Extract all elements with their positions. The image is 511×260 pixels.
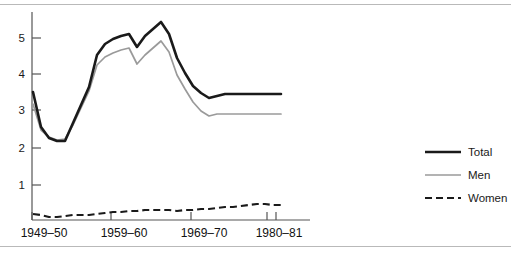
series-line-women (33, 204, 281, 217)
y-tick-label-4: 4 (19, 68, 26, 80)
bottom-divider-rule (0, 246, 511, 247)
y-tick-label-5: 5 (19, 32, 25, 44)
y-axis-tick-labels: 5 4 3 2 1 (19, 32, 26, 191)
series-line-total (33, 22, 281, 141)
line-chart-svg: 5 4 3 2 1 1949–50 1959–60 1969–70 1980–8… (0, 0, 511, 260)
legend-label-total: Total (468, 146, 492, 158)
legend-item-men[interactable]: Men (425, 169, 490, 181)
chart-figure: 5 4 3 2 1 1949–50 1959–60 1969–70 1980–8… (0, 0, 511, 260)
legend-label-men: Men (468, 169, 490, 181)
x-tick-label-1980-81: 1980–81 (256, 226, 303, 240)
y-tick-label-1: 1 (19, 179, 25, 191)
x-tick-label-1969-70: 1969–70 (181, 226, 228, 240)
legend-item-women[interactable]: Women (425, 192, 507, 204)
legend-label-women: Women (468, 192, 507, 204)
y-tick-label-2: 2 (19, 142, 25, 154)
series-group (33, 22, 281, 217)
chart-legend: Total Men Women (425, 146, 507, 204)
legend-item-total[interactable]: Total (425, 146, 492, 158)
series-line-men (33, 41, 281, 140)
x-tick-label-1959-60: 1959–60 (101, 226, 148, 240)
x-axis-tick-labels: 1949–50 1959–60 1969–70 1980–81 (21, 226, 303, 240)
y-tick-label-3: 3 (19, 104, 25, 116)
top-divider-rule (0, 4, 511, 5)
x-tick-label-1949-50: 1949–50 (21, 226, 68, 240)
